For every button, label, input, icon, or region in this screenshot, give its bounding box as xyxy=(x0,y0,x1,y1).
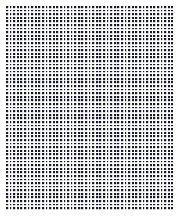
dot-grid-pattern xyxy=(6,6,173,210)
image-canvas xyxy=(0,0,181,223)
